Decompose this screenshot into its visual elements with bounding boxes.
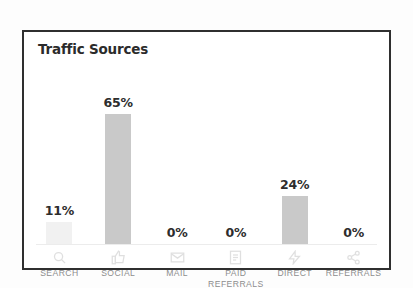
- category-label: REFERRALS: [324, 268, 383, 279]
- category-label: SEARCH: [30, 268, 89, 279]
- thumbs-up-icon: [89, 248, 148, 266]
- category-label-line1: SEARCH: [30, 268, 89, 279]
- category-label: SOCIAL: [89, 268, 148, 279]
- bar-column[interactable]: 24%DIRECT: [265, 68, 324, 262]
- document-icon: [206, 248, 265, 266]
- bar-stack: 0%: [206, 68, 265, 244]
- bar-group: 11%SEARCH65%SOCIAL0%MAIL0%PAIDREFERRALS2…: [30, 68, 383, 262]
- bar[interactable]: [46, 222, 72, 244]
- bar-chart-plot: 11%SEARCH65%SOCIAL0%MAIL0%PAIDREFERRALS2…: [30, 68, 383, 262]
- category-label-line1: MAIL: [148, 268, 207, 279]
- bar-column[interactable]: 0%REFERRALS: [324, 68, 383, 262]
- category-label: MAIL: [148, 268, 207, 279]
- bolt-icon: [265, 248, 324, 266]
- category-label-line2: REFERRALS: [206, 279, 265, 288]
- bar-value-label: 24%: [280, 177, 309, 192]
- bar-column[interactable]: 0%PAIDREFERRALS: [206, 68, 265, 262]
- category-label-line1: REFERRALS: [324, 268, 383, 279]
- page-title: Traffic Sources: [38, 41, 148, 57]
- bar-value-label: 11%: [45, 203, 74, 218]
- category-label-line1: PAID: [206, 268, 265, 279]
- category-label: DIRECT: [265, 268, 324, 279]
- bar-stack: 24%: [265, 68, 324, 244]
- share-icon: [324, 248, 383, 266]
- bar-stack: 11%: [30, 68, 89, 244]
- bar-stack: 65%: [89, 68, 148, 244]
- bar-value-label: 0%: [343, 225, 364, 240]
- category-label: PAIDREFERRALS: [206, 268, 265, 288]
- bar-value-label: 65%: [104, 95, 133, 110]
- bar[interactable]: [105, 114, 131, 244]
- search-icon: [30, 248, 89, 266]
- bar-column[interactable]: 0%MAIL: [148, 68, 207, 262]
- bar-value-label: 0%: [225, 225, 246, 240]
- envelope-icon: [148, 248, 207, 266]
- bar-stack: 0%: [324, 68, 383, 244]
- category-label-line1: SOCIAL: [89, 268, 148, 279]
- bar-value-label: 0%: [167, 225, 188, 240]
- category-label-line1: DIRECT: [265, 268, 324, 279]
- bar-column[interactable]: 11%SEARCH: [30, 68, 89, 262]
- traffic-sources-card: Traffic Sources 11%SEARCH65%SOCIAL0%MAIL…: [22, 30, 391, 270]
- bar-column[interactable]: 65%SOCIAL: [89, 68, 148, 262]
- bar[interactable]: [282, 196, 308, 244]
- bar-stack: 0%: [148, 68, 207, 244]
